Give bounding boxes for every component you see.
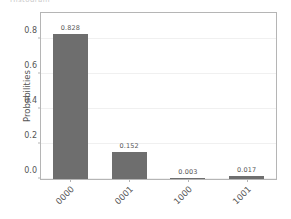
x-tick-label: 0000 (41, 184, 76, 219)
y-tick-label: 0.4 (24, 96, 41, 105)
x-tick-mark (247, 179, 248, 182)
x-tick-mark (70, 179, 71, 182)
bar[interactable] (112, 152, 147, 179)
y-tick-mark (38, 108, 41, 109)
y-tick-mark (38, 73, 41, 74)
bar[interactable] (53, 34, 88, 179)
x-tick-mark (129, 179, 130, 182)
figure-suptitle: Histogram (10, 0, 50, 2)
y-tick-label: 0.2 (24, 131, 41, 140)
bar-value-label: 0.152 (120, 142, 139, 150)
y-tick-label: 0.6 (24, 61, 41, 70)
y-tick-mark (38, 38, 41, 39)
bar-value-label: 0.003 (178, 168, 197, 176)
y-tick-label: 0.0 (24, 166, 41, 175)
x-tick-label: 1000 (159, 184, 194, 219)
x-tick-label: 0001 (100, 184, 135, 219)
x-tick-label: 1001 (217, 184, 252, 219)
y-tick-mark (38, 143, 41, 144)
x-tick-mark (188, 179, 189, 182)
chart-figure: Histogram Probabilities 0.00.20.40.60.80… (0, 0, 291, 219)
bar-value-label: 0.828 (61, 24, 80, 32)
y-tick-mark (38, 178, 41, 179)
plot-area: 0.00.20.40.60.80.82800000.15200010.00310… (40, 12, 277, 180)
y-axis-label-container: Probabilities (2, 12, 14, 180)
y-tick-label: 0.8 (24, 26, 41, 35)
bar-value-label: 0.017 (237, 166, 256, 174)
